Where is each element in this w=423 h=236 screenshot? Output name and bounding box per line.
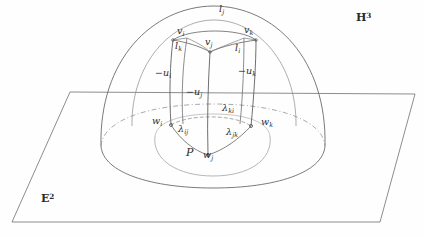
wall-edge-wj-vj xyxy=(208,52,210,155)
label-v-i: vi xyxy=(177,26,185,37)
label-minus-u-k: −uk xyxy=(238,66,256,77)
figure-canvas xyxy=(0,0,423,236)
hyperbolic-symbol: H xyxy=(356,11,366,24)
label-v-j: vj xyxy=(205,37,213,48)
plane-outline xyxy=(12,92,415,222)
dome-arc xyxy=(101,6,325,146)
label-hyperbolic-space: H3 xyxy=(356,12,371,23)
label-minus-u-j: −uj xyxy=(186,87,202,98)
label-w-j: wj xyxy=(203,150,213,161)
dome-base-back-dashed xyxy=(101,104,325,146)
label-lambda-jk: λjk xyxy=(226,127,238,138)
top-edge-li xyxy=(210,40,256,52)
label-l-i: li xyxy=(235,43,240,54)
wall-edge-right-inner xyxy=(240,38,244,124)
label-polygon-P: P xyxy=(186,147,193,158)
euclidean-exponent: 2 xyxy=(49,192,54,201)
hyperbolic-exponent: 3 xyxy=(366,11,371,20)
hyperbolic-prism-figure: H3 E2 vi vj vk lj lk li −ui −uj −uk wi w… xyxy=(0,0,423,236)
label-euclidean-space: E2 xyxy=(41,193,54,204)
polygon-P xyxy=(155,114,270,176)
label-lambda-ki: λki xyxy=(222,103,234,114)
euclidean-symbol: E xyxy=(41,192,49,205)
wall-edge-wi-vi xyxy=(170,40,173,125)
label-l-j: lj xyxy=(219,4,224,15)
label-l-k: lk xyxy=(175,41,182,52)
label-w-i: wi xyxy=(152,116,162,127)
label-v-k: vk xyxy=(244,25,253,36)
wall-edge-wk-vk xyxy=(251,40,256,126)
label-lambda-ij: λij xyxy=(178,124,188,135)
label-minus-u-i: −ui xyxy=(155,68,171,79)
wall-edge-left-inner xyxy=(182,38,187,124)
prism-walls xyxy=(170,38,256,155)
label-w-k: wk xyxy=(261,117,273,128)
euclidean-plane xyxy=(12,92,415,222)
